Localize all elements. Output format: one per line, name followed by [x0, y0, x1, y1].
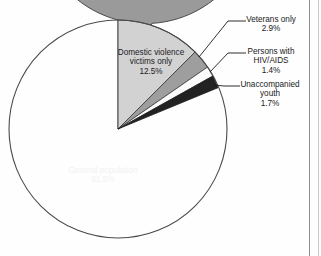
slice-label-veterans: Veterans only 2.9% — [233, 15, 309, 34]
slice-value-veterans: 2.9% — [233, 24, 309, 33]
figure-border-right-outer — [318, 0, 319, 256]
slice-value-unaccompanied-youth: 1.7% — [228, 99, 312, 108]
slice-value-domestic-violence: 12.5% — [108, 67, 194, 76]
slice-value-general-population: 81.5% — [48, 175, 158, 184]
slice-label-hiv-aids-line1: Persons with — [248, 47, 295, 56]
slice-label-hiv-aids-line2: HIV/AIDS — [253, 56, 288, 65]
slice-label-domestic-violence: Domestic violence victims only 12.5% — [108, 48, 194, 76]
slice-label-general-population: General population 81.5% — [48, 166, 158, 185]
slice-label-veterans-line1: Veterans only — [246, 15, 296, 24]
slice-value-hiv-aids: 1.4% — [233, 66, 309, 75]
slice-label-general-population-line1: General population — [68, 166, 137, 175]
slice-label-unaccompanied-youth-line1: Unaccompanied — [240, 80, 299, 89]
slice-label-unaccompanied-youth-line2: youth — [260, 89, 280, 98]
slice-label-domestic-violence-line2: victims only — [130, 57, 172, 66]
pie-chart-figure: Domestic violence victims only 12.5% Gen… — [0, 0, 321, 256]
slice-label-domestic-violence-line1: Domestic violence — [118, 48, 184, 57]
slice-label-hiv-aids: Persons with HIV/AIDS 1.4% — [233, 47, 309, 75]
figure-border-right — [309, 0, 310, 256]
slice-label-unaccompanied-youth: Unaccompanied youth 1.7% — [228, 80, 312, 108]
pie-chart-canvas — [0, 0, 321, 256]
